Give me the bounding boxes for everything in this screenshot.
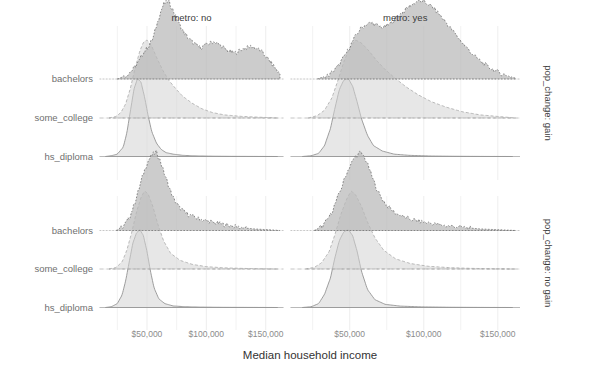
panel-strip-label-col0: metro: no bbox=[171, 12, 211, 23]
y-axis-label-bachelors-row1: bachelors bbox=[52, 225, 93, 236]
y-axis-label-hs_diploma-row1: hs_diploma bbox=[44, 302, 93, 313]
ridgeline-figure: hs_diplomasome_collegebachelorshs_diplom… bbox=[0, 0, 594, 375]
density-bachelors bbox=[314, 151, 515, 230]
x-tick-label: $50,000 bbox=[334, 329, 365, 339]
panel-strip-label-row1: pop_change: no gain bbox=[543, 219, 554, 308]
y-axis-label-bachelors-row0: bachelors bbox=[52, 73, 93, 84]
x-tick-label: $50,000 bbox=[132, 329, 163, 339]
y-axis-label-some_college-row0: some_college bbox=[34, 112, 93, 123]
x-tick-label: $100,000 bbox=[406, 329, 442, 339]
x-axis-title: Median household income bbox=[243, 349, 377, 361]
y-axis-label-some_college-row1: some_college bbox=[34, 263, 93, 274]
panel-strip-label-row0: pop_change: gain bbox=[543, 65, 554, 141]
x-tick-label: $150,000 bbox=[480, 329, 516, 339]
density-bachelors bbox=[116, 150, 280, 230]
x-tick-label: $100,000 bbox=[189, 329, 225, 339]
y-axis-label-hs_diploma-row0: hs_diploma bbox=[44, 151, 93, 162]
figure-svg: hs_diplomasome_collegebachelorshs_diplom… bbox=[0, 0, 594, 375]
panel-strip-label-col1: metro: yes bbox=[383, 12, 428, 23]
x-tick-label: $150,000 bbox=[248, 329, 284, 339]
